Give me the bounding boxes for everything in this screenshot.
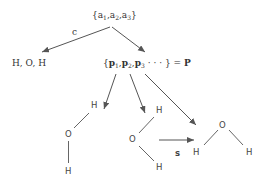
edge-root-to-set xyxy=(112,27,145,52)
transition-label-s: s xyxy=(175,148,180,158)
molecule-3-bond-2 xyxy=(229,130,243,145)
molecule-2-bond-1 xyxy=(139,117,154,133)
molecule-2-atom-h-bottom: H xyxy=(156,162,162,172)
diagram-canvas: {a1,a2,a3} c H, O, H {p1,p2,p3 · · · } =… xyxy=(0,0,268,182)
edge-label-c: c xyxy=(72,27,77,37)
molecule-2-atom-o: O xyxy=(129,134,136,144)
set-p-node-label: {p1,p2,p3 · · · } = P xyxy=(103,58,191,69)
edge-p-to-molecule-1 xyxy=(104,74,116,109)
molecule-3-atom-h-right: H xyxy=(246,147,252,157)
molecule-1-bond-1 xyxy=(74,113,89,128)
atoms-node-label: H, O, H xyxy=(12,58,46,68)
molecule-1: H O H xyxy=(65,100,97,176)
molecule-2-atom-h-top: H xyxy=(156,105,162,115)
molecule-1-atom-o: O xyxy=(65,129,72,139)
molecule-3-atom-o: O xyxy=(219,120,226,130)
edge-p-to-molecule-2 xyxy=(130,74,145,113)
molecule-3-atom-h-left: H xyxy=(193,147,199,157)
molecule-2-bond-2 xyxy=(139,146,154,161)
molecule-3-bond-1 xyxy=(204,130,218,145)
molecule-1-atom-h-top: H xyxy=(91,100,97,110)
molecule-3: O H H xyxy=(193,120,252,157)
edge-p-to-molecule-3 xyxy=(145,74,196,125)
root-node-label: {a1,a2,a3} xyxy=(92,10,137,21)
molecule-1-atom-h-bottom: H xyxy=(65,166,71,176)
molecule-2: H O H xyxy=(129,105,162,172)
